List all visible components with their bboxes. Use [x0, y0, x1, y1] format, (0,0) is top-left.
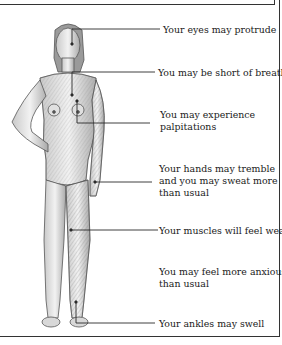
label-muscles: Your muscles will feel weak — [159, 225, 282, 237]
leader-line-ankles — [76, 302, 155, 323]
label-palpitations: You may experience palpitations — [160, 109, 255, 133]
leader-line-eyes — [72, 29, 160, 44]
label-eyes: Your eyes may protrude — [163, 24, 276, 36]
body-silhouette — [12, 24, 104, 327]
label-anxious: You may feel more anxious than usual — [159, 266, 282, 290]
label-ankles: Your ankles may swell — [159, 318, 264, 330]
label-breath: You may be short of breath — [158, 67, 282, 79]
label-hands: Your hands may tremble and you may sweat… — [159, 163, 278, 199]
